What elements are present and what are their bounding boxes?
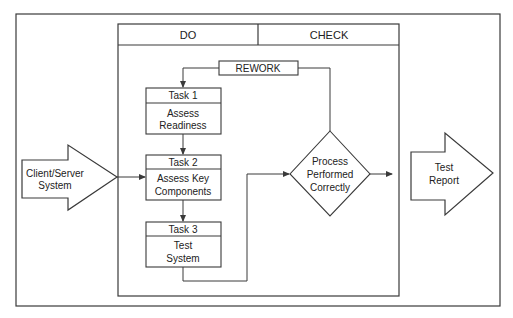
rework-loop-right bbox=[298, 68, 330, 131]
task-2-title: Task 2 bbox=[169, 157, 198, 168]
input-label-line2: System bbox=[38, 180, 71, 191]
task-2-line2: Components bbox=[155, 186, 212, 197]
task-3: Task 3 Test System bbox=[146, 222, 221, 267]
task-1: Task 1 Assess Readiness bbox=[146, 88, 221, 134]
rework-loop-left bbox=[183, 68, 219, 87]
rework-label: REWORK bbox=[236, 63, 281, 74]
decision-line1: Process bbox=[312, 156, 348, 167]
output-arrow-shape bbox=[411, 133, 493, 215]
task-3-line1: Test bbox=[174, 240, 193, 251]
decision-line3: Correctly bbox=[310, 182, 350, 193]
output-label-line2: Report bbox=[429, 175, 459, 186]
task-3-title: Task 3 bbox=[169, 224, 198, 235]
column-header-do: DO bbox=[180, 29, 197, 41]
workflow-diagram: DO CHECK Client/Server System REWORK Tas… bbox=[0, 0, 513, 318]
decision-line2: Performed bbox=[307, 169, 354, 180]
task-1-line1: Assess bbox=[167, 108, 199, 119]
task-1-line2: Readiness bbox=[159, 120, 206, 131]
task-2: Task 2 Assess Key Components bbox=[146, 155, 221, 200]
input-label-line1: Client/Server bbox=[26, 168, 84, 179]
task-3-line2: System bbox=[166, 253, 199, 264]
task-2-line1: Assess Key bbox=[157, 173, 209, 184]
task-1-title: Task 1 bbox=[169, 90, 198, 101]
column-header-check: CHECK bbox=[310, 29, 349, 41]
output-label-line1: Test bbox=[435, 162, 454, 173]
